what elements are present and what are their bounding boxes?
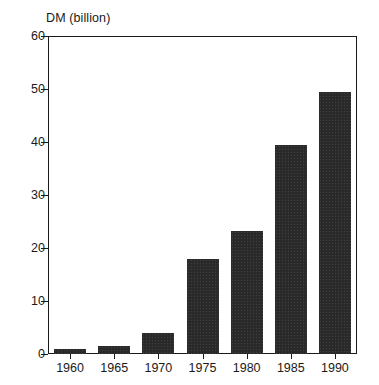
y-axis-title: DM (billion): [46, 11, 110, 25]
x-axis-tick-mark: [70, 354, 71, 359]
bar: [275, 145, 307, 354]
x-axis-tick-mark: [158, 354, 159, 359]
y-axis-tick-label: 40: [31, 135, 45, 149]
x-axis-tick-mark: [335, 354, 336, 359]
y-axis-tick-label: 60: [31, 29, 45, 43]
x-axis-tick-label: 1980: [233, 361, 261, 375]
bar: [187, 259, 219, 354]
x-axis-tick-label: 1975: [189, 361, 217, 375]
y-axis-tick-label: 50: [31, 82, 45, 96]
plot-area: 0102030405060196019651970197519801985199…: [48, 36, 357, 354]
x-axis-tick-mark: [291, 354, 292, 359]
y-axis-tick-label: 10: [31, 294, 45, 308]
bar: [142, 333, 174, 354]
x-axis-tick-label: 1970: [144, 361, 172, 375]
bar: [231, 231, 263, 354]
x-axis-tick-label: 1960: [56, 361, 84, 375]
bar: [319, 92, 351, 354]
y-axis-tick-label: 20: [31, 241, 45, 255]
x-axis-tick-label: 1990: [321, 361, 349, 375]
x-axis-tick-mark: [247, 354, 248, 359]
x-axis-tick-label: 1985: [277, 361, 305, 375]
x-axis-tick-mark: [114, 354, 115, 359]
chart-screenshot: DM (billion) 010203040506019601965197019…: [0, 0, 379, 385]
y-axis-tick-label: 30: [31, 188, 45, 202]
x-axis-tick-mark: [203, 354, 204, 359]
bar: [98, 346, 130, 354]
y-axis-tick-label: 0: [38, 347, 45, 361]
x-axis-tick-label: 1965: [100, 361, 128, 375]
